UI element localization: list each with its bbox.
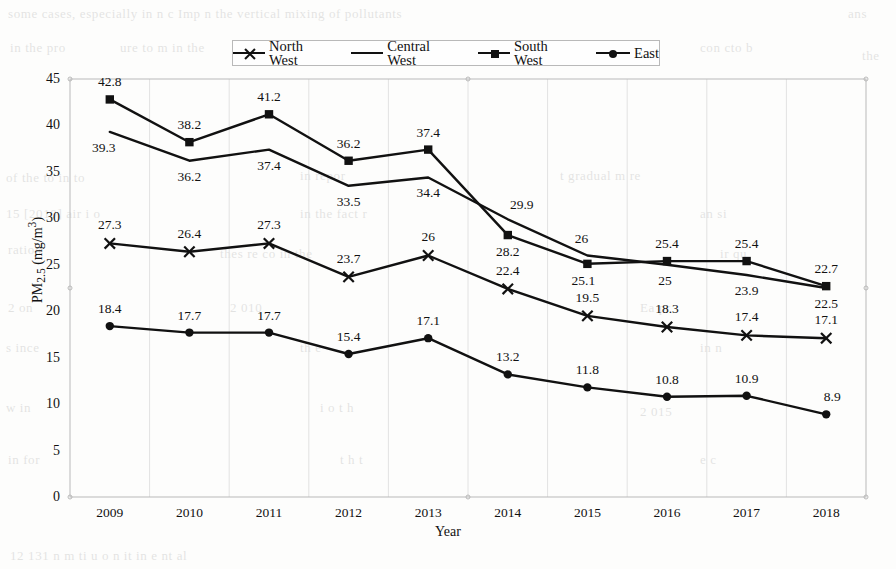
y-tick-label: 20	[30, 303, 60, 319]
data-point-label: 23.9	[735, 283, 759, 299]
data-point-label: 10.9	[735, 371, 759, 387]
data-point-label: 22.5	[814, 296, 838, 312]
data-point-label: 10.8	[655, 372, 679, 388]
x-tick-label: 2012	[319, 505, 379, 521]
y-tick-label: 30	[30, 210, 60, 226]
data-point-label: 42.8	[98, 74, 122, 90]
data-point-label: 15.4	[337, 329, 361, 345]
data-point-label: 25	[658, 273, 672, 289]
data-point-label: 17.1	[416, 313, 440, 329]
data-point-label: 17.4	[735, 309, 759, 325]
legend-item-central-west[interactable]: Central West	[351, 39, 458, 68]
data-point-label: 11.8	[576, 362, 599, 378]
data-point-label: 29.9	[510, 197, 534, 213]
x-tick-label: 2015	[557, 505, 617, 521]
data-point-label: 18.4	[98, 301, 122, 317]
data-point-label: 38.2	[178, 117, 202, 133]
x-tick-label: 2014	[478, 505, 538, 521]
x-tick-label: 2009	[80, 505, 140, 521]
data-point-label: 23.7	[337, 251, 361, 267]
data-point-label: 18.3	[655, 301, 679, 317]
data-point-label: 13.2	[496, 349, 520, 365]
data-point-label: 26	[575, 231, 589, 247]
data-point-label: 28.2	[496, 244, 520, 260]
data-point-label: 36.2	[178, 169, 202, 185]
x-tick-label: 2011	[239, 505, 299, 521]
cross-marker-icon	[233, 46, 265, 60]
legend-item-north-west[interactable]: North West	[233, 39, 331, 68]
line-chart-figure: North West Central West South West East …	[0, 0, 896, 569]
y-tick-label: 15	[30, 350, 60, 366]
data-point-label: 8.9	[824, 389, 841, 405]
y-tick-label: 40	[30, 117, 60, 133]
legend-label: South West	[514, 39, 576, 68]
data-point-label: 37.4	[416, 125, 440, 141]
y-tick-label: 0	[30, 489, 60, 505]
legend-item-east[interactable]: East	[596, 46, 659, 61]
data-point-label: 34.4	[416, 185, 440, 201]
y-tick-label: 5	[30, 443, 60, 459]
x-tick-label: 2016	[637, 505, 697, 521]
data-point-label: 26	[421, 229, 435, 245]
y-tick-label: 45	[30, 71, 60, 87]
x-tick-label: 2010	[159, 505, 219, 521]
chart-legend: North West Central West South West East	[232, 40, 660, 66]
circle-marker-icon	[596, 46, 630, 60]
data-point-label: 27.3	[257, 217, 281, 233]
y-tick-label: 35	[30, 164, 60, 180]
square-marker-icon	[478, 46, 510, 60]
legend-label: East	[634, 46, 659, 61]
legend-label: Central West	[387, 39, 458, 68]
legend-label: North West	[269, 39, 331, 68]
data-point-label: 22.4	[496, 263, 520, 279]
data-point-label: 17.7	[257, 308, 281, 324]
data-point-label: 17.7	[178, 308, 202, 324]
data-point-label: 39.3	[92, 140, 116, 156]
x-tick-label: 2018	[796, 505, 856, 521]
data-point-label: 17.1	[814, 312, 838, 328]
data-point-label: 36.2	[337, 136, 361, 152]
legend-item-south-west[interactable]: South West	[478, 39, 576, 68]
y-tick-label: 25	[30, 257, 60, 273]
y-tick-label: 10	[30, 396, 60, 412]
x-tick-label: 2017	[717, 505, 777, 521]
data-point-label: 33.5	[337, 194, 361, 210]
data-point-label: 22.7	[814, 261, 838, 277]
line-marker-icon	[351, 46, 383, 60]
data-point-label: 26.4	[178, 226, 202, 242]
data-point-label: 37.4	[257, 158, 281, 174]
data-point-label: 25.1	[572, 273, 596, 289]
x-tick-label: 2013	[398, 505, 458, 521]
data-point-label: 27.3	[98, 217, 122, 233]
chart-plot-svg	[0, 0, 896, 569]
data-point-label: 19.5	[576, 290, 600, 306]
data-point-label: 25.4	[735, 236, 759, 252]
x-axis-title: Year	[0, 524, 896, 540]
data-point-label: 41.2	[257, 89, 281, 105]
data-point-label: 25.4	[655, 236, 679, 252]
